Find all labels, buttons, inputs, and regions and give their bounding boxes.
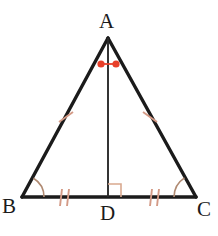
vertex-label-D: D [100,203,115,224]
apex-angle-dot-right [112,60,119,67]
angle-arc-C [174,178,185,197]
vertex-label-A: A [99,11,114,32]
angle-arc-B [34,178,45,197]
tick-mark-DC-1 [150,189,152,206]
tick-mark-BD-2 [67,189,69,206]
apex-angle-dot-left [97,60,104,67]
right-angle-marker-D [108,184,121,197]
tick-mark-DC-2 [157,189,159,206]
vertex-label-C: C [197,199,211,220]
vertex-label-B: B [2,196,16,217]
tick-mark-BD-1 [60,189,62,206]
